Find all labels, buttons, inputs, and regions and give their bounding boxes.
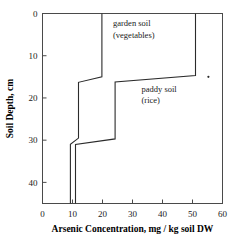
x-tick-label: 10 — [68, 209, 78, 219]
y-tick-label: 20 — [29, 93, 39, 103]
x-tick-label: 50 — [188, 209, 198, 219]
x-tick-label: 30 — [128, 209, 138, 219]
x-tick-label: 40 — [158, 209, 168, 219]
annotation-paddy: (rice) — [142, 95, 161, 105]
x-tick-label: 20 — [98, 209, 108, 219]
y-tick-label: 10 — [29, 51, 39, 61]
y-tick-label: 40 — [29, 178, 39, 188]
y-axis-title: Soil Depth, cm — [5, 79, 15, 138]
annotation-garden: garden soil — [113, 18, 151, 28]
x-tick-label: 0 — [40, 209, 45, 219]
annotation-paddy: paddy soil — [142, 84, 178, 94]
y-tick-label: 30 — [29, 135, 39, 145]
annotation-garden: (vegetables) — [113, 30, 155, 40]
x-axis-title: Arsenic Concentration, mg / kg soil DW — [52, 224, 214, 234]
data-marker — [207, 76, 209, 78]
arsenic-depth-profile-chart: 0102030405060010203040Arsenic Concentrat… — [0, 0, 245, 242]
x-tick-label: 60 — [218, 209, 228, 219]
series-paddy-soil-curve — [76, 14, 196, 204]
y-tick-label: 0 — [33, 9, 38, 19]
